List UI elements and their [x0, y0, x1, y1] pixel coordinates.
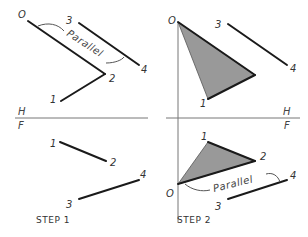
parallel-bracket-right: [106, 57, 124, 63]
point-label-4-front: 4: [140, 169, 146, 180]
step2-caption: STEP 2: [177, 215, 211, 225]
point-label-2-front: 2: [110, 157, 116, 168]
parallel-label-2: Parallel: [212, 173, 254, 194]
line-1-2: [61, 74, 105, 101]
point-label-3-top: 3: [215, 19, 221, 30]
fold-label-f: F: [18, 120, 24, 131]
step2-front-view: Parallel O 1 2 3 4: [166, 131, 296, 212]
step1-caption: STEP 1: [36, 215, 70, 225]
line-3-4-front: [79, 180, 139, 199]
point-label-1: 1: [50, 94, 56, 105]
point-label-3: 3: [66, 15, 72, 26]
point-label-1-front: 1: [50, 138, 56, 149]
step2-panel: O 3 4 1 H F Parallel O 1 2 3 4 STEP 2: [166, 15, 300, 225]
fold-label-h-2: H: [283, 106, 291, 117]
point-label-1-top: 1: [200, 98, 206, 109]
step1-front-view: 1 2 3 4: [50, 138, 146, 210]
step1-panel: Parallel O 3 4 2 1 H F 1 2 3 4 STEP 1: [15, 9, 148, 225]
point-label-4-top: 4: [290, 63, 296, 74]
line-3-4-top: [228, 24, 287, 65]
step1-top-view: Parallel O 3 4 2 1: [18, 9, 147, 105]
point-label-o-top: O: [168, 15, 176, 26]
step2-top-view: O 3 4 1: [168, 15, 296, 109]
point-label-3-front: 3: [66, 199, 72, 210]
point-label-4-front-2: 4: [290, 170, 296, 181]
point-label-2: 2: [109, 73, 115, 84]
point-label-3-front-2: 3: [215, 201, 221, 212]
parallel-bracket-right-2: [266, 173, 280, 182]
point-label-1-front-2: 1: [201, 131, 207, 142]
diagram-canvas: Parallel O 3 4 2 1 H F 1 2 3 4 STEP 1: [0, 0, 308, 237]
fold-label-f-2: F: [284, 120, 290, 131]
line-1-2-front: [60, 142, 106, 161]
fold-label-h: H: [18, 106, 26, 117]
point-label-o: O: [18, 9, 26, 20]
point-label-o-front: O: [166, 188, 174, 199]
point-label-2-front-2: 2: [260, 151, 266, 162]
parallel-bracket-left-2: [185, 184, 210, 191]
point-label-4: 4: [141, 64, 147, 75]
parallel-label: Parallel: [65, 27, 105, 58]
